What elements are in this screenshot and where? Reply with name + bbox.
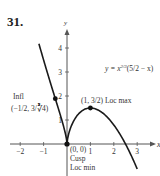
svg-text:y = x2/3(5/2 − x): y = x2/3(5/2 − x) bbox=[104, 64, 154, 73]
y-tick-label: 2 bbox=[58, 92, 62, 101]
inflection-label-coords: (−1/2, 3/∛4) bbox=[11, 103, 49, 113]
y-tick-label: 4 bbox=[58, 44, 62, 53]
y-tick-label: 3 bbox=[58, 68, 62, 77]
y-axis-label: y bbox=[63, 19, 68, 27]
loc-min-label: Loc min bbox=[70, 163, 95, 172]
inflection-point-marker bbox=[53, 96, 58, 101]
x-tick-label: 1 bbox=[89, 147, 93, 156]
function-graph: x y −2−1123 1234 y = x2/3(5/2 − x) Infl … bbox=[0, 0, 160, 176]
x-tick-label: 3 bbox=[135, 147, 139, 156]
equation-label: y = x2/3(5/2 − x) bbox=[104, 64, 154, 73]
x-tick-label: 2 bbox=[112, 147, 116, 156]
cusp-marker bbox=[64, 141, 69, 146]
x-tick-label: −1 bbox=[40, 147, 48, 156]
y-axis-arrow-icon bbox=[65, 29, 70, 35]
local-max-label: (1, 3/2) Loc max bbox=[81, 96, 132, 105]
x-axis-label: x bbox=[156, 140, 160, 149]
local-max-marker bbox=[88, 106, 93, 111]
inflection-label-title: Infl bbox=[13, 92, 24, 101]
cusp-label-coords: (0, 0) bbox=[70, 145, 87, 154]
x-axis-arrow-icon bbox=[150, 142, 156, 147]
x-tick-label: −2 bbox=[16, 147, 24, 156]
cusp-label-title: Cusp bbox=[70, 154, 86, 163]
